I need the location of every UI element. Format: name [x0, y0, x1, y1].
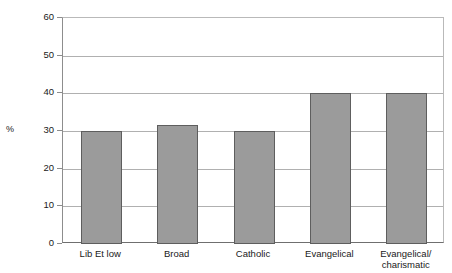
- x-axis-label: Evangelical: [291, 249, 367, 260]
- y-tick-label-40: 40: [12, 87, 54, 97]
- gridline-50: [63, 56, 443, 57]
- bar: [157, 125, 198, 244]
- bar: [81, 131, 122, 244]
- y-tick-0: [57, 243, 62, 244]
- bar-chart: % 0102030405060 Lib Et lowBroadCatholicE…: [0, 0, 452, 273]
- plot-area: [62, 17, 444, 243]
- x-axis-label: Catholic: [215, 249, 291, 260]
- y-tick-label-10: 10: [12, 200, 54, 210]
- y-tick-50: [57, 55, 62, 56]
- bar: [386, 93, 427, 244]
- bar: [310, 93, 351, 244]
- y-tick-10: [57, 205, 62, 206]
- y-tick-label-0: 0: [12, 238, 54, 248]
- x-axis-label: Lib Et low: [62, 249, 138, 260]
- y-tick-20: [57, 168, 62, 169]
- y-tick-60: [57, 17, 62, 18]
- y-tick-label-20: 20: [12, 163, 54, 173]
- y-tick-40: [57, 92, 62, 93]
- bar: [234, 131, 275, 244]
- y-tick-label-50: 50: [12, 50, 54, 60]
- x-axis-label: Evangelical/ charismatic: [368, 249, 444, 270]
- y-tick-30: [57, 130, 62, 131]
- y-tick-label-60: 60: [12, 12, 54, 22]
- y-tick-label-30: 30: [12, 125, 54, 135]
- x-axis-label: Broad: [138, 249, 214, 260]
